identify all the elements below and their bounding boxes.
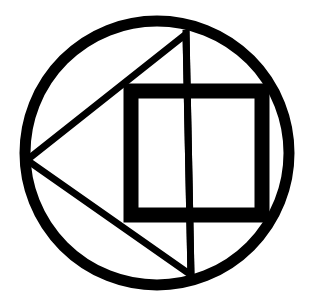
vertical-line	[186, 30, 191, 278]
symbol-canvas	[0, 0, 312, 308]
geometric-symbol-icon	[0, 0, 312, 308]
